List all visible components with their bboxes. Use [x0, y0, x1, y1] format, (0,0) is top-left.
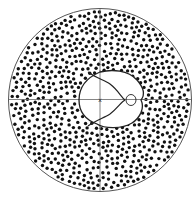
- dot: [96, 174, 99, 177]
- dot: [43, 91, 46, 94]
- dot: [54, 157, 57, 160]
- dot: [21, 126, 24, 129]
- dot: [116, 20, 119, 23]
- dot: [41, 70, 44, 73]
- dot: [50, 39, 53, 42]
- dot: [167, 107, 170, 110]
- dot: [161, 38, 164, 41]
- dot: [61, 30, 64, 33]
- dot: [136, 54, 139, 57]
- dot: [160, 73, 163, 76]
- dot: [58, 27, 61, 30]
- dot: [63, 112, 66, 115]
- dot: [155, 71, 158, 74]
- dot: [95, 127, 98, 130]
- dot: [75, 67, 78, 70]
- dot: [17, 67, 20, 70]
- dot: [152, 28, 155, 31]
- dot: [15, 86, 18, 89]
- dot: [73, 55, 76, 58]
- dot: [12, 76, 15, 79]
- dot: [33, 147, 36, 150]
- dot: [144, 80, 147, 83]
- dot: [37, 107, 40, 110]
- dot: [29, 59, 32, 62]
- dot: [57, 110, 60, 113]
- dot: [41, 37, 44, 40]
- dot: [155, 100, 158, 103]
- dot: [107, 140, 110, 143]
- dot: [59, 133, 62, 136]
- dot: [145, 44, 148, 47]
- dot: [68, 180, 71, 183]
- dot: [86, 56, 89, 59]
- dot: [86, 67, 89, 70]
- dot: [167, 115, 170, 118]
- dot: [17, 112, 20, 115]
- dot: [60, 122, 63, 125]
- dot: [61, 173, 64, 176]
- dot: [68, 55, 71, 58]
- dot: [95, 40, 98, 43]
- dot: [126, 46, 129, 49]
- dot: [162, 87, 165, 90]
- dot: [142, 75, 145, 78]
- dot: [94, 32, 97, 35]
- dot: [115, 173, 118, 176]
- dot: [158, 96, 161, 99]
- dot: [125, 32, 128, 35]
- dot: [173, 116, 176, 119]
- dot: [52, 111, 55, 114]
- dot: [158, 108, 161, 111]
- dot: [91, 45, 94, 48]
- dot: [119, 23, 122, 26]
- dot: [177, 61, 180, 64]
- dot: [87, 17, 90, 20]
- dot: [155, 57, 158, 60]
- dot: [109, 149, 112, 152]
- dot: [89, 29, 92, 32]
- dot: [147, 171, 150, 174]
- dot: [23, 130, 26, 133]
- dot: [61, 75, 64, 78]
- dot: [37, 67, 40, 70]
- dot: [147, 139, 150, 142]
- dot: [81, 129, 84, 132]
- dot: [16, 128, 19, 131]
- dot: [23, 67, 26, 70]
- dot: [128, 65, 131, 68]
- dot: [46, 143, 49, 146]
- dot: [22, 136, 25, 139]
- dot: [72, 77, 75, 80]
- dot: [56, 175, 59, 178]
- dot: [85, 126, 88, 129]
- dot: [50, 161, 53, 164]
- dot: [76, 176, 79, 179]
- dot: [154, 108, 157, 111]
- dot: [38, 62, 41, 65]
- dot: [117, 139, 120, 142]
- dot: [122, 142, 125, 145]
- dot: [168, 135, 171, 138]
- dot: [111, 31, 114, 34]
- dot: [69, 175, 72, 178]
- dot: [175, 110, 178, 113]
- dot: [185, 110, 188, 113]
- dot: [150, 58, 153, 61]
- dot: [22, 71, 25, 74]
- dot: [133, 154, 136, 157]
- dot: [70, 151, 73, 154]
- dot: [131, 69, 134, 72]
- dot: [62, 69, 65, 72]
- dot: [116, 62, 119, 65]
- dot: [165, 60, 168, 63]
- dot: [45, 51, 48, 54]
- dot: [144, 104, 147, 107]
- dot: [174, 65, 177, 68]
- dot: [132, 149, 135, 152]
- dot: [115, 52, 118, 55]
- dot: [70, 34, 73, 37]
- dot: [138, 143, 141, 146]
- dot: [133, 145, 136, 148]
- dot: [27, 46, 30, 49]
